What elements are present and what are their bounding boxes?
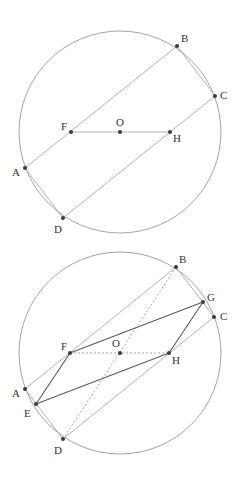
point-A [23,166,27,170]
segment-AB [25,267,176,389]
segment-AD [25,168,63,218]
point-label-F: F [61,120,67,132]
point-label-B: B [181,32,188,44]
point-A [23,387,27,391]
point-O [118,351,122,355]
point-F [69,130,73,134]
segment-FG [70,302,203,353]
point-label-A: A [12,387,20,399]
point-label-H: H [173,132,181,144]
point-E [34,402,38,406]
segment-EF [36,353,70,404]
segment-CD [63,96,215,218]
point-label-O: O [112,337,120,349]
point-label-C: C [220,310,227,322]
point-B [175,44,179,48]
segment-GH [169,302,203,353]
point-D [61,437,65,441]
point-H [168,130,172,134]
point-label-D: D [54,223,62,235]
segment-AB [25,46,177,168]
segment-BC [177,46,215,96]
segment-CD [63,317,214,439]
point-label-H: H [172,354,180,366]
point-C [212,315,216,319]
point-D [61,216,65,220]
geometry-figure-stage: ABCDFOHABGCDEFOH [0,0,243,484]
geometry-diagram: ABCDFOHABGCDEFOH [0,0,243,484]
point-O [118,130,122,134]
point-label-A: A [12,166,20,178]
point-B [174,265,178,269]
point-label-C: C [220,89,227,101]
point-label-E: E [24,407,31,419]
point-H [167,351,171,355]
point-label-G: G [207,291,215,303]
figure-1: ABCDFOH [12,31,227,235]
point-C [213,94,217,98]
figure-2: ABGCDEFOH [12,252,227,456]
point-label-B: B [179,253,186,265]
segment-HE [36,353,169,404]
point-G [201,300,205,304]
point-label-F: F [61,340,67,352]
point-label-D: D [54,444,62,456]
point-label-O: O [116,116,124,128]
point-F [68,351,72,355]
